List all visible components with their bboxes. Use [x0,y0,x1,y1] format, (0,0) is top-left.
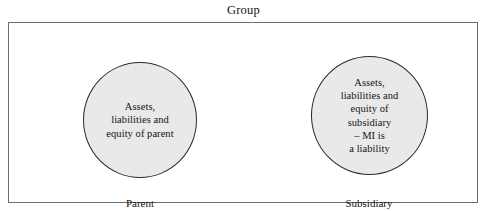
parent-text-line-3: equity of parent [106,127,173,140]
subsidiary-text-line-2: liabilities and [341,89,399,102]
subsidiary-text-line-3: equity of [341,102,399,115]
parent-text-line-2: liabilities and [106,113,173,126]
subsidiary-circle-text: Assets, liabilities and equity of subsid… [335,76,405,155]
parent-circle: Assets, liabilities and equity of parent [83,62,197,178]
group-title: Group [0,2,487,18]
subsidiary-label: Subsidiary [309,196,429,210]
subsidiary-circle: Assets, liabilities and equity of subsid… [311,56,428,175]
entity-parent: Assets, liabilities and equity of parent [83,62,197,178]
parent-circle-text: Assets, liabilities and equity of parent [100,100,179,140]
group-boundary-box: Assets, liabilities and equity of parent… [8,22,478,203]
parent-label: Parent [83,196,197,210]
parent-text-line-1: Assets, [106,100,173,113]
subsidiary-text-line-5: – MI is [341,129,399,142]
diagram-canvas: Group Assets, liabilities and equity of … [0,0,487,211]
entity-subsidiary: Assets, liabilities and equity of subsid… [311,56,428,175]
subsidiary-text-line-1: Assets, [341,76,399,89]
subsidiary-text-line-4: subsidiary [341,116,399,129]
subsidiary-text-line-6: a liability [341,142,399,155]
